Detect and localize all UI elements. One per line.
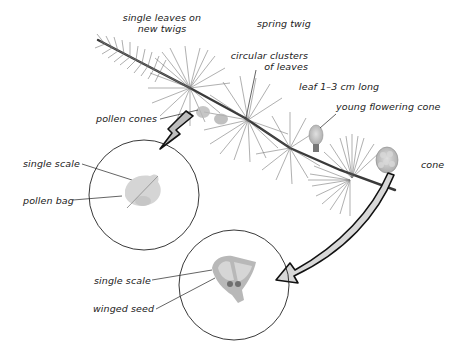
label-circular-clusters: circular clusters of leaves <box>230 50 308 72</box>
label-pollen-bag: pollen bag <box>23 195 74 206</box>
label-circular-clusters-line1: circular clusters <box>230 50 308 61</box>
label-circular-clusters-line2: of leaves <box>230 61 308 72</box>
seed-detail-arrow <box>276 173 394 283</box>
label-cone: cone <box>421 159 444 170</box>
young-flowering-cone <box>309 125 323 152</box>
pollen-inset <box>89 140 199 250</box>
label-single-leaves-line1: single leaves on <box>112 12 212 23</box>
larch-twig-diagram: single leaves on new twigs spring twig c… <box>0 0 463 356</box>
mature-cone <box>376 147 398 173</box>
label-single-leaves-line2: new twigs <box>112 23 212 34</box>
pollen-cones <box>196 106 228 125</box>
label-seed-single-scale: single scale <box>94 275 151 286</box>
label-pollen-cones: pollen cones <box>96 113 157 124</box>
label-young-flowering-cone: young flowering cone <box>336 101 440 112</box>
label-leaf-length: leaf 1–3 cm long <box>299 81 379 92</box>
pollen-detail-arrow <box>160 111 193 149</box>
label-pollen-single-scale: single scale <box>23 158 80 169</box>
label-winged-seed: winged seed <box>93 303 154 314</box>
label-single-leaves: single leaves on new twigs <box>112 12 212 34</box>
seed-inset <box>179 230 289 340</box>
label-spring-twig: spring twig <box>257 18 311 29</box>
